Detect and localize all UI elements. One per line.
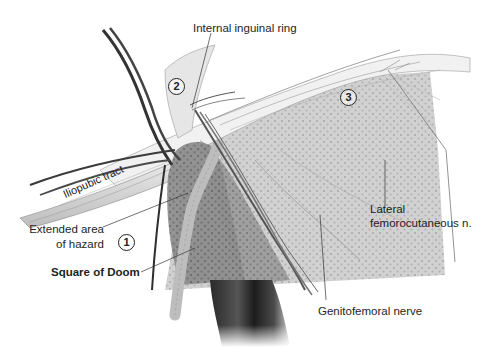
label-internal-inguinal-ring: Internal inguinal ring (193, 21, 297, 35)
label-extended-area-line1: Extended area (28, 222, 104, 236)
anatomical-illustration (0, 0, 493, 347)
label-extended-area-line2: of hazard (28, 237, 104, 251)
label-lateral-femorocutaneous-line2: femorocutaneous n. (370, 216, 472, 230)
label-square-of-doom: Square of Doom (51, 265, 140, 279)
region-marker-1: 1 (118, 234, 135, 251)
region-marker-3: 3 (340, 89, 357, 106)
label-lateral-femorocutaneous-line1: Lateral (370, 202, 405, 216)
label-genitofemoral-nerve: Genitofemoral nerve (318, 304, 422, 318)
region-marker-2: 2 (168, 78, 185, 95)
